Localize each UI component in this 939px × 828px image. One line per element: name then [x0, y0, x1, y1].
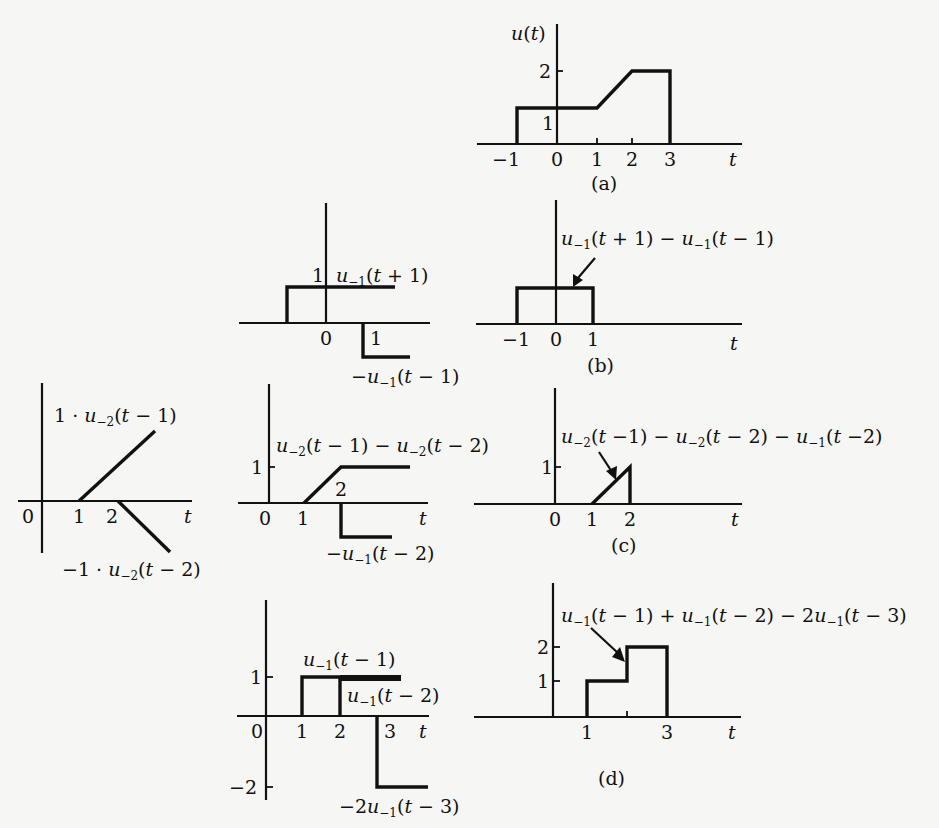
u-1-t-minus-1-signal	[302, 677, 340, 716]
panel-c-left: 1 · u−2(t − 1) 0 1 2 t −1 · u−2(t − 2)	[18, 383, 201, 583]
panel-c-left-xtick-label-0: 0	[22, 505, 34, 527]
panel-d-left-ytick-label-1: 1	[250, 666, 262, 688]
panel-c-right: u−2(t −1) − u−2(t − 2) − u−1(t −2) 1 0 1…	[474, 388, 882, 556]
panel-d-right-xlabel: t	[728, 721, 736, 743]
panel-d-caption: (d)	[598, 767, 625, 789]
panel-a-xtick-label-2: 2	[626, 148, 638, 170]
panel-d-right: u−1(t − 1) + u−1(t − 2) − 2u−1(t − 3) 2 …	[474, 583, 907, 789]
panel-b-caption: (b)	[587, 354, 614, 376]
u-1-t-plus-1-signal	[287, 287, 395, 323]
panel-b-left-xtick-label-0: 0	[320, 327, 332, 349]
panel-c-mid-xlabel: t	[419, 507, 427, 529]
panel-c-left-xlabel: t	[184, 505, 192, 527]
panel-d-left-xtick-label-0: 0	[251, 720, 263, 742]
ramp-u-2-t-minus-1-signal	[79, 431, 155, 501]
panel-b-right-xtick-label-1: 1	[587, 328, 599, 350]
ramp-u-2-t-minus-1-label: 1 · u−2(t − 1)	[54, 404, 177, 429]
panel-a-ylabel: u(t)	[511, 22, 546, 44]
panel-b-right-xtick-label-0: 0	[550, 328, 562, 350]
neg-u-1-t-minus-1-label: −u−1(t − 1)	[351, 365, 459, 390]
panel-c-left-xtick-label-1: 1	[73, 505, 85, 527]
panel-a-ytick-label-1: 1	[542, 112, 554, 134]
panel-c-mid-xtick-label-0: 0	[259, 507, 271, 529]
panel-d-left-xtick-label-3: 3	[384, 720, 396, 742]
panel-d-right-ytick-label-2: 2	[537, 636, 549, 658]
panel-c-mid-upper-label: u−2(t − 1) − u−2(t − 2)	[276, 434, 489, 459]
panel-c-right-xtick-label-1: 1	[586, 508, 598, 530]
panel-b-left-ytick-label-1: 1	[312, 264, 324, 286]
neg-u-1-t-minus-2-label: −u−1(t − 2)	[326, 542, 434, 567]
panel-c-right-xlabel: t	[731, 508, 739, 530]
panel-d-left-ytick-label-m2: −2	[229, 776, 257, 798]
panel-b-right-arrow	[578, 258, 595, 278]
panel-a: u(t) 2 1 −1 0 1 2 3 t (a)	[477, 22, 742, 194]
panel-d-right-xtick-label-3: 3	[661, 721, 673, 743]
u-1-t-minus-2-label: u−1(t − 2)	[347, 684, 440, 709]
u-1-t-plus-1-label: u−1(t + 1)	[336, 264, 429, 289]
panel-d-right-label: u−1(t − 1) + u−1(t − 2) − 2u−1(t − 3)	[561, 604, 907, 629]
panel-a-xtick-label-3: 3	[664, 148, 676, 170]
panel-d-right-ytick-label-1: 1	[537, 670, 549, 692]
panel-d-left: u−1(t − 1) u−1(t − 2) 1 −2 0 1 2 3 t −2u…	[229, 600, 460, 820]
panel-c-right-arrowhead-icon	[606, 466, 617, 480]
panel-d-right-arrow	[591, 628, 619, 654]
panel-b-right-xlabel: t	[730, 332, 738, 354]
panel-a-xlabel: t	[729, 148, 737, 170]
panel-b-left-xtick-label-1: 1	[370, 327, 382, 349]
panel-d-right-staircase-signal	[587, 647, 667, 717]
panel-c-mid-ramp-signal	[304, 467, 410, 503]
panel-d-left-xlabel: t	[419, 720, 427, 742]
panel-c-mid: u−2(t − 1) − u−2(t − 2) 1 2 0 1 t −u−1(t…	[238, 384, 489, 567]
panel-c-mid-xtick-label-1: 1	[297, 507, 309, 529]
panel-b-right-xtick-label-m1: −1	[502, 328, 530, 350]
signal-decomposition-figure: u(t) 2 1 −1 0 1 2 3 t (a) 1 u−1(t + 1) 0…	[0, 0, 939, 828]
panel-d-left-xtick-label-2: 2	[334, 720, 346, 742]
panel-b-left: 1 u−1(t + 1) 0 1 −u−1(t − 1)	[239, 203, 459, 390]
panel-a-ytick-label-2: 2	[539, 60, 551, 82]
panel-d-right-xtick-label-1: 1	[581, 721, 593, 743]
panel-a-xtick-label-0: 0	[551, 148, 563, 170]
panel-c-caption: (c)	[611, 534, 636, 556]
panel-c-mid-tick-label-2: 2	[335, 478, 347, 500]
panel-c-right-ytick-label-1: 1	[541, 456, 553, 478]
panel-c-right-xtick-label-0: 0	[549, 508, 561, 530]
neg-ramp-u-2-t-minus-2-signal	[118, 501, 170, 552]
neg-u-1-t-minus-2-signal	[341, 503, 392, 537]
panel-c-mid-ytick-label-1: 1	[251, 456, 263, 478]
panel-a-caption: (a)	[591, 172, 617, 194]
neg-ramp-u-2-t-minus-2-label: −1 · u−2(t − 2)	[62, 558, 201, 583]
panel-c-right-arrow	[599, 452, 612, 472]
panel-c-right-label: u−2(t −1) − u−2(t − 2) − u−1(t −2)	[561, 425, 882, 450]
neg-2u-1-t-minus-3-label: −2u−1(t − 3)	[339, 795, 460, 820]
panel-c-right-xtick-label-2: 2	[624, 508, 636, 530]
panel-b-right: u−1(t + 1) − u−1(t − 1) −1 0 1 t (b)	[476, 200, 774, 376]
panel-b-right-arrowhead-icon	[573, 274, 583, 287]
panel-c-left-xtick-label-2: 2	[106, 505, 118, 527]
panel-a-xtick-label-1: 1	[591, 148, 603, 170]
panel-b-right-label: u−1(t + 1) − u−1(t − 1)	[561, 227, 774, 252]
panel-d-left-xtick-label-1: 1	[296, 720, 308, 742]
panel-a-xtick-label-m1: −1	[492, 148, 520, 170]
u-1-t-minus-1-label: u−1(t − 1)	[303, 648, 396, 673]
